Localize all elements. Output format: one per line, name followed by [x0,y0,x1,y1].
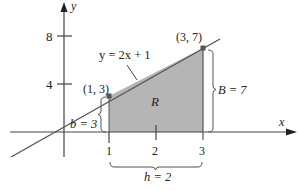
equation-leader-line [127,65,137,80]
dimension-b-label: b = 3 [70,118,97,131]
line-equation-label: y = 2x + 1 [99,49,151,62]
region-label: R [151,95,159,108]
dimension-h-label: h = 2 [144,171,171,184]
x-tick-label-1: 1 [106,145,112,157]
point-label-1-3: (1, 3) [83,83,109,95]
y-axis-label: y [71,0,76,12]
x-axis-label: x [279,116,284,128]
dimension-B-label: B = 7 [218,84,247,97]
y-tick-label-4: 4 [46,78,53,91]
brace-b [98,97,106,132]
point-label-3-7: (3, 7) [176,31,202,43]
diagram-canvas [0,0,298,190]
x-tick-label-2: 2 [152,145,158,157]
brace-h [110,162,202,170]
x-tick-label-3: 3 [199,145,205,157]
brace-B [208,50,216,132]
y-tick-label-8: 8 [46,30,53,43]
point-3-7 [201,46,206,51]
y-axis-arrow-icon [61,2,68,12]
x-axis-arrow-icon [286,129,297,136]
